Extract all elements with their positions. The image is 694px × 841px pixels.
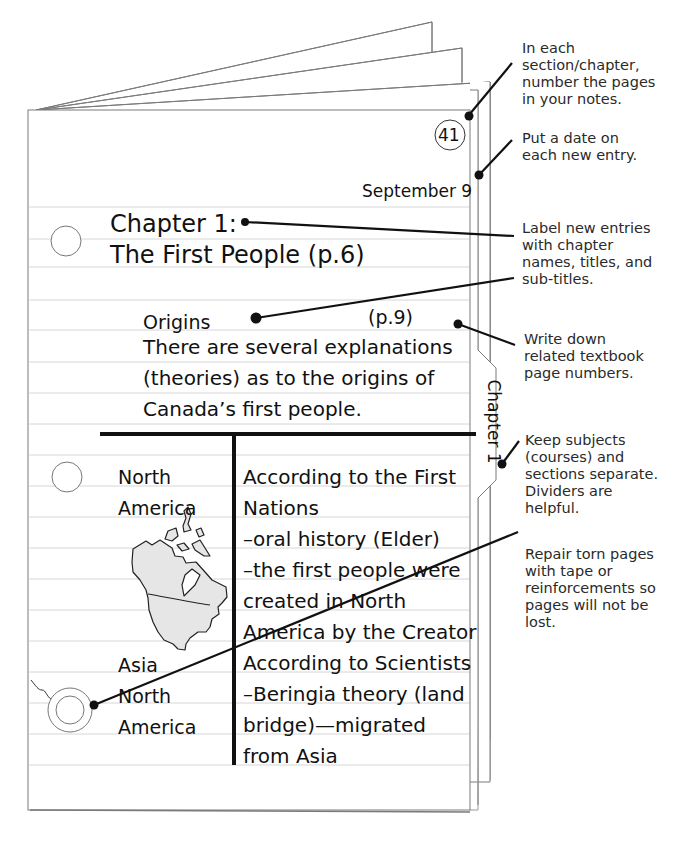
right-column-line: from Asia [243, 745, 338, 768]
right-column-line: –oral history (Elder) [243, 528, 440, 551]
binder-hole-icon [51, 226, 81, 256]
divider-tab-label[interactable]: Chapter 1 [482, 379, 505, 463]
left-column-item: North [118, 466, 171, 489]
chapter-heading: Chapter 1: [110, 210, 237, 238]
right-column-line: bridge)—migrated [243, 714, 426, 737]
right-column-line: –the first people were [243, 559, 461, 582]
annotation-repair-pages: Repair torn pages with tape or reinforce… [525, 546, 656, 631]
annotation-keep-separate: Keep subjects (courses) and sections sep… [525, 432, 658, 517]
right-column-line: According to Scientists [243, 652, 471, 675]
left-column-item: Asia [118, 654, 158, 677]
section-subtitle: Origins [143, 311, 210, 334]
intro-line: Canada’s first people. [143, 398, 362, 421]
chapter-title: The First People (p.6) [110, 241, 365, 269]
right-column-line: According to the First [243, 466, 456, 489]
annotation-date-entry: Put a date on each new entry. [522, 130, 637, 164]
left-column-item: America [118, 497, 196, 520]
annotation-page-numbers: Write down related textbook page numbers… [524, 331, 644, 382]
intro-line: There are several explanations [143, 336, 453, 359]
right-column-line: –Beringia theory (land [243, 683, 465, 706]
right-column-line: Nations [243, 497, 319, 520]
intro-line: (theories) as to the origins of [143, 367, 434, 390]
right-column-line: America by the Creator [243, 621, 477, 644]
left-column-item: America [118, 716, 196, 739]
annotation-label-entries: Label new entries with chapter names, ti… [522, 220, 652, 288]
left-column-item: North [118, 685, 171, 708]
page-number: 41 [438, 124, 460, 147]
right-column-line: created in North [243, 590, 406, 613]
section-page-ref: (p.9) [368, 306, 413, 329]
entry-date: September 9 [362, 180, 472, 203]
annotation-number-pages: In each section/chapter, number the page… [522, 40, 655, 108]
binder-hole-icon [52, 462, 82, 492]
